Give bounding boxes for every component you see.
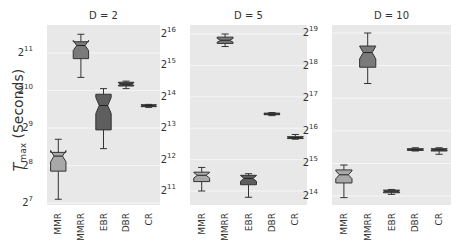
y-tick-label: 214 [303,188,319,201]
x-tick-label: EBR [99,213,109,231]
y-tick-label: 211 [18,45,33,58]
panel-title: D = 5 [234,10,263,21]
box-cr [141,104,156,107]
y-tick-label: 27 [22,195,33,208]
panel-title: D = 2 [89,10,118,21]
y-tick-label: 216 [303,123,319,136]
y-tick-label: 28 [22,158,33,171]
panel-3: D = 10214215216217218219MMRMMRREBRDBRCR [303,10,451,241]
y-tick-label: 219 [303,25,318,38]
panel-title: D = 10 [374,10,409,21]
box-dbr [264,113,280,116]
x-tick-label: CR [144,213,154,226]
y-tick-label: 218 [303,58,318,71]
x-tick-label: DBR [267,213,277,232]
x-tick-label: MMRR [363,213,373,241]
x-tick-label: MMR [53,213,63,235]
y-tick-label: 29 [22,120,33,133]
x-tick-label: DBR [121,213,131,232]
x-tick-label: MMR [197,213,207,235]
chart-figure: Tmax (Seconds) D = 2272829210211MMRMMRRE… [0,0,465,247]
x-tick-label: CR [290,213,300,226]
x-tick-label: CR [434,213,444,226]
panel-1: D = 2272829210211MMRMMRREBRDBRCR [18,10,160,241]
x-tick-label: DBR [410,213,420,232]
box-dbr [407,148,423,151]
y-tick-label: 212 [161,152,176,165]
y-tick-label: 215 [161,57,176,70]
panel-2: D = 5211212213214215216MMRMMRREBRDBRCR [161,10,307,241]
y-tick-label: 216 [161,26,177,39]
x-tick-label: MMRR [76,213,86,241]
x-tick-label: MMRR [220,213,230,241]
x-tick-label: EBR [244,213,254,231]
y-tick-label: 214 [161,89,177,102]
y-tick-label: 217 [303,90,318,103]
y-tick-label: 215 [303,155,318,168]
y-tick-label: 211 [161,183,176,196]
x-tick-label: EBR [387,213,397,231]
y-tick-label: 213 [161,120,176,133]
x-tick-label: MMR [339,213,349,235]
